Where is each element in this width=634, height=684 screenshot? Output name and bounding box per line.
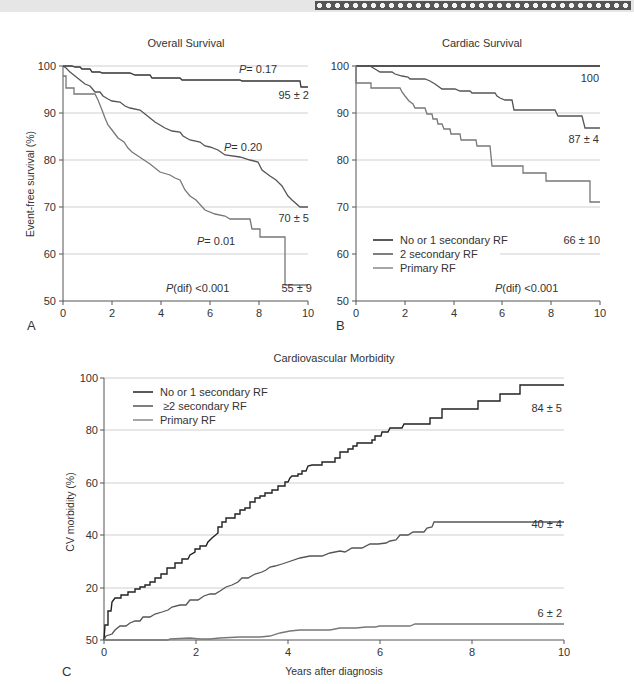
series-2-secondary-rf	[63, 66, 308, 207]
final-value: 95 ± 2	[278, 89, 309, 101]
x-tick: 6	[499, 307, 505, 319]
y-tick: 100	[80, 372, 98, 384]
y-tick: 70	[44, 201, 56, 213]
y-tick: 60	[86, 477, 98, 489]
legend-item: No or 1 secondary RF	[400, 234, 508, 246]
legend: No or 1 secondary RF 2 secondary RF Prim…	[373, 234, 508, 274]
legend-item: 2 secondary RF	[400, 248, 478, 260]
x-axis-label: Years after diagnosis	[285, 665, 383, 677]
x-tick: 0	[60, 307, 66, 319]
final-value: 6 ± 2	[538, 607, 562, 619]
legend-item: No or 1 secondary RF	[160, 386, 268, 398]
final-value: 40 ± 4	[531, 518, 562, 530]
x-tick: 10	[302, 307, 314, 319]
y-tick: 70	[337, 201, 349, 213]
x-tick: 6	[207, 307, 213, 319]
y-tick: 60	[44, 248, 56, 260]
chart-title: Overall Survival	[147, 37, 224, 49]
legend-item: Primary RF	[160, 414, 216, 426]
y-tick: 100	[331, 60, 349, 72]
final-value: 55 ± 9	[281, 282, 312, 294]
y-tick: 80	[86, 424, 98, 436]
y-tick: 90	[44, 107, 56, 119]
x-tick: 0	[353, 307, 359, 319]
x-tick: 8	[469, 646, 475, 658]
y-tick: 40	[86, 529, 98, 541]
legend-item: ≥2 secondary RF	[163, 400, 247, 412]
final-value: 70 ± 5	[278, 212, 309, 224]
annotation: P= 0.01	[197, 235, 235, 247]
series-primary-rf	[356, 66, 600, 202]
y-tick: 60	[337, 248, 349, 260]
series-primary-rf	[104, 624, 564, 640]
series-2-secondary-rf	[104, 522, 564, 640]
y-tick: 50	[337, 295, 349, 307]
y-tick: 80	[44, 154, 56, 166]
annotation: P= 0.20	[224, 141, 262, 153]
chart-title: Cardiac Survival	[442, 37, 522, 49]
chart-overall-survival: Overall Survival 100 90 80 70 60 50	[24, 37, 314, 333]
y-tick: 50	[86, 634, 98, 646]
panel-letter: C	[62, 664, 71, 679]
series-2-secondary-rf	[356, 66, 600, 128]
y-tick: 20	[86, 582, 98, 594]
chart-cardiac-survival: Cardiac Survival 100 90 80 70 60 50 0 2	[331, 37, 606, 333]
final-value: 84 ± 5	[531, 402, 562, 414]
x-tick: 8	[256, 307, 262, 319]
x-tick: 10	[594, 307, 606, 319]
y-tick: 50	[44, 295, 56, 307]
y-axis-label: Event-free survival (%)	[24, 131, 36, 237]
annotation: P(dif) <0.001	[495, 282, 558, 294]
annotation: P= 0.17	[239, 63, 277, 75]
y-tick: 80	[337, 154, 349, 166]
x-tick: 2	[402, 307, 408, 319]
figure: Overall Survival 100 90 80 70 60 50	[0, 0, 634, 684]
legend-item: Primary RF	[400, 262, 456, 274]
x-tick: 10	[558, 646, 570, 658]
x-tick: 2	[193, 646, 199, 658]
panel-letter: B	[336, 318, 345, 333]
annotation: P(dif) <0.001	[166, 282, 229, 294]
x-tick: 6	[377, 646, 383, 658]
chart-title: Cardiovascular Morbidity	[273, 352, 395, 364]
chart-cardiovascular-morbidity: Cardiovascular Morbidity 100 80 60 40 20…	[62, 352, 570, 679]
y-tick: 100	[38, 60, 56, 72]
final-value: 100	[581, 72, 599, 84]
y-axis-label: CV morbidity (%)	[64, 472, 76, 551]
panel-letter: A	[27, 318, 36, 333]
x-tick: 8	[548, 307, 554, 319]
legend: No or 1 secondary RF ≥2 secondary RF Pri…	[133, 386, 268, 426]
y-tick: 90	[337, 107, 349, 119]
x-tick: 4	[285, 646, 291, 658]
x-tick: 4	[451, 307, 457, 319]
final-value: 87 ± 4	[568, 133, 599, 145]
x-tick: 2	[109, 307, 115, 319]
x-tick: 4	[158, 307, 164, 319]
final-value: 66 ± 10	[563, 234, 600, 246]
x-tick: 0	[101, 646, 107, 658]
